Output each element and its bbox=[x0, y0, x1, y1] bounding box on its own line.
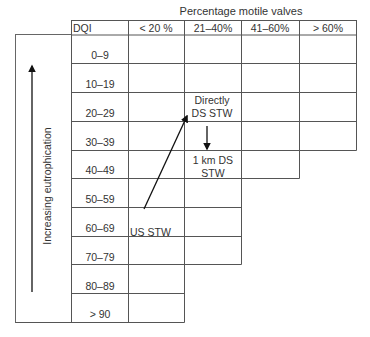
label-directly-ds-1: Directly bbox=[194, 94, 230, 106]
row-label-20-29: 20–29 bbox=[85, 107, 114, 119]
header-col-gt60: > 60% bbox=[313, 22, 343, 34]
row-label-gt90: > 90 bbox=[90, 308, 111, 320]
arrow-diagonal-icon bbox=[144, 116, 187, 209]
header-col-41-60: 41–60% bbox=[251, 22, 290, 34]
header-dqi: DQI bbox=[73, 22, 92, 34]
label-us-stw: US STW bbox=[130, 226, 171, 238]
axis-label: Increasing eutrophication bbox=[41, 127, 53, 244]
row-label-0-9: 0–9 bbox=[91, 49, 109, 61]
label-1km-ds-1: 1 km DS bbox=[193, 154, 233, 166]
grid bbox=[16, 35, 357, 323]
label-directly-ds-2: DS STW bbox=[192, 107, 233, 119]
header-col-lt20: < 20 % bbox=[140, 22, 173, 34]
row-label-30-39: 30–39 bbox=[85, 136, 114, 148]
header-col-21-40: 21–40% bbox=[194, 22, 233, 34]
row-label-40-49: 40–49 bbox=[85, 164, 114, 176]
label-1km-ds-2: STW bbox=[201, 167, 224, 179]
row-label-80-89: 80–89 bbox=[85, 280, 114, 292]
row-label-70-79: 70–79 bbox=[85, 251, 114, 263]
row-label-50-59: 50–59 bbox=[85, 193, 114, 205]
row-label-10-19: 10–19 bbox=[85, 78, 114, 90]
eutrophication-diagram: Percentage motile valves DQI < 20 % 21–4… bbox=[0, 0, 370, 337]
row-label-60-69: 60–69 bbox=[85, 222, 114, 234]
chart-title: Percentage motile valves bbox=[180, 5, 303, 17]
